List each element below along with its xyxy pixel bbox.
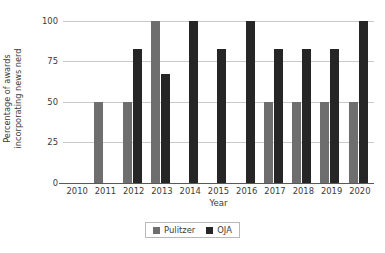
bar-group bbox=[261, 21, 289, 183]
y-tick-label-100: 100 bbox=[32, 17, 58, 25]
x-tick-label-2011: 2011 bbox=[90, 187, 120, 195]
bar-oja-2012[interactable] bbox=[133, 49, 142, 183]
y-axis-title-line-1: Percentage of awards bbox=[3, 54, 13, 143]
y-axis-title-line-2: incorporating news nerd bbox=[13, 48, 23, 148]
x-tick-label-2015: 2015 bbox=[204, 187, 234, 195]
y-tick-label-50: 50 bbox=[32, 98, 58, 106]
x-tick-label-2010: 2010 bbox=[62, 187, 92, 195]
legend-swatch-icon-oja bbox=[206, 227, 213, 234]
bar-oja-2016[interactable] bbox=[246, 21, 255, 183]
legend-label-oja: OJA bbox=[217, 225, 232, 235]
bar-oja-2017[interactable] bbox=[274, 49, 283, 183]
bar-oja-2019[interactable] bbox=[330, 49, 339, 183]
x-axis-title: Year bbox=[63, 198, 374, 208]
bar-group bbox=[289, 21, 317, 183]
plot-area: 100 75 50 25 0 2010201120122013201420152… bbox=[63, 21, 374, 183]
legend-entry-pulitzer[interactable]: Pulitzer bbox=[153, 225, 195, 235]
legend: Pulitzer OJA bbox=[0, 222, 385, 238]
x-tick-label-2013: 2013 bbox=[147, 187, 177, 195]
bar-chart-figure: Percentage of awards incorporating news … bbox=[0, 0, 385, 253]
x-tick-label-2016: 2016 bbox=[232, 187, 262, 195]
legend-label-pulitzer: Pulitzer bbox=[164, 225, 195, 235]
bar-oja-2014[interactable] bbox=[189, 21, 198, 183]
bar-group bbox=[233, 21, 261, 183]
bar-pulitzer-2020[interactable] bbox=[349, 102, 358, 183]
legend-swatch-icon-pulitzer bbox=[153, 227, 160, 234]
x-tick-label-2012: 2012 bbox=[119, 187, 149, 195]
bar-group bbox=[63, 21, 91, 183]
bar-group bbox=[176, 21, 204, 183]
bar-pulitzer-2017[interactable] bbox=[264, 102, 273, 183]
x-tick-label-2020: 2020 bbox=[345, 187, 375, 195]
bar-oja-2020[interactable] bbox=[359, 21, 368, 183]
bar-group bbox=[317, 21, 345, 183]
bar-pulitzer-2013[interactable] bbox=[151, 21, 160, 183]
x-axis-line bbox=[59, 183, 374, 184]
y-tick-label-75: 75 bbox=[32, 57, 58, 65]
y-tick-label-0: 0 bbox=[32, 179, 58, 187]
x-tick-label-2019: 2019 bbox=[317, 187, 347, 195]
y-axis-title: Percentage of awards incorporating news … bbox=[0, 0, 26, 196]
x-tick-label-2017: 2017 bbox=[260, 187, 290, 195]
bar-oja-2018[interactable] bbox=[302, 49, 311, 183]
legend-entry-oja[interactable]: OJA bbox=[206, 225, 232, 235]
bar-pulitzer-2019[interactable] bbox=[320, 102, 329, 183]
y-tick-label-25: 25 bbox=[32, 138, 58, 146]
x-tick-label-2018: 2018 bbox=[288, 187, 318, 195]
bar-pulitzer-2018[interactable] bbox=[292, 102, 301, 183]
bar-group bbox=[120, 21, 148, 183]
bar-group bbox=[204, 21, 232, 183]
bar-pulitzer-2012[interactable] bbox=[123, 102, 132, 183]
legend-box: Pulitzer OJA bbox=[145, 222, 240, 238]
bar-group bbox=[91, 21, 119, 183]
bar-group bbox=[148, 21, 176, 183]
bar-group bbox=[346, 21, 374, 183]
bar-oja-2013[interactable] bbox=[161, 74, 170, 183]
x-tick-label-2014: 2014 bbox=[175, 187, 205, 195]
bar-pulitzer-2011[interactable] bbox=[94, 102, 103, 183]
bar-oja-2015[interactable] bbox=[217, 49, 226, 183]
